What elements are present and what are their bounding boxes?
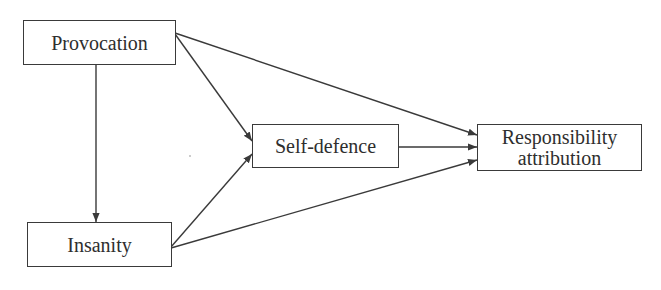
node-self-defence: Self-defence [252,124,399,168]
node-insanity: Insanity [27,222,172,267]
node-responsibility-label-line1: Responsibility [502,127,618,148]
node-provocation-label: Provocation [51,32,148,54]
node-responsibility-label-line2: attribution [518,148,601,169]
edge-insanity-responsibility [171,160,477,248]
edge-insanity-self-defence [171,154,252,247]
edge-provocation-responsibility [175,33,477,135]
node-responsibility-attribution: Responsibility attribution [477,124,642,171]
node-self-defence-label: Self-defence [275,135,376,157]
path-diagram: Provocation Insanity Self-defence Respon… [0,0,661,290]
node-provocation: Provocation [23,20,176,65]
node-insanity-label: Insanity [67,234,131,256]
edge-provocation-self-defence [175,34,252,141]
scan-artifact [189,155,191,157]
